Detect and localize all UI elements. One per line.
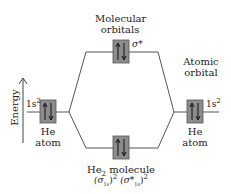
right-atom-label: He atom: [177, 126, 213, 148]
right-atomic-orbital-box: [187, 100, 203, 123]
right-atom-line1: He: [177, 126, 213, 137]
right-config-label: 1s2: [206, 99, 221, 110]
left-atomic-orbital-box: [40, 100, 56, 123]
energy-axis-arrow: [19, 78, 27, 143]
mo-title-line2: orbitals: [95, 24, 145, 35]
mo-title-line1: Molecular: [95, 13, 145, 24]
ao-title-line1: Atomic: [176, 56, 226, 67]
right-atom-line2: atom: [177, 137, 213, 148]
bonding-orbital-box: [113, 136, 129, 159]
left-atom-line1: He: [30, 126, 66, 137]
antibonding-orbital-box: [113, 40, 129, 63]
atomic-orbital-title: Atomic orbital: [176, 56, 226, 78]
energy-axis-label: Energy: [9, 88, 20, 128]
molecule-electron-configuration: (σ1s)2 (σ*1s)2: [85, 175, 157, 186]
left-atom-label: He atom: [30, 126, 66, 148]
ao-title-line2: orbital: [176, 67, 226, 78]
molecular-orbitals-title: Molecular orbitals: [95, 13, 145, 35]
antibonding-label: σ*: [132, 39, 143, 50]
molecule-label: He2 molecule (σ1s)2 (σ*1s)2: [85, 164, 157, 186]
left-atom-line2: atom: [30, 137, 66, 148]
left-config-label: 1s2: [26, 99, 41, 110]
